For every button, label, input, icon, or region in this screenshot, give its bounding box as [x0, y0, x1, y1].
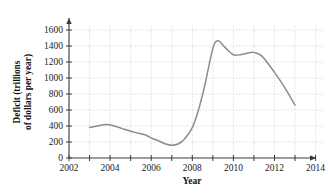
x-tick-label: 2006: [142, 163, 161, 173]
x-tick-label: 2014: [306, 163, 325, 173]
y-tick-label: 600: [49, 105, 64, 115]
x-tick-label: 2010: [224, 163, 243, 173]
y-tick-label: 1400: [44, 41, 63, 51]
y-tick-label: 400: [49, 121, 64, 131]
chart-canvas: 2002200420062008201020122014 02004006008…: [0, 0, 328, 196]
y-axis-title-line2: of dollars per year): [23, 54, 34, 130]
y-tick-label: 1000: [44, 73, 63, 83]
y-tick-label: 1600: [44, 25, 63, 35]
x-tick-label: 2002: [60, 163, 79, 173]
x-tick-label: 2008: [183, 163, 202, 173]
y-tick-label: 1200: [44, 57, 63, 67]
y-tick-label: 800: [49, 89, 64, 99]
deficit-line-chart: 2002200420062008201020122014 02004006008…: [0, 0, 328, 196]
y-axis-tick-labels: 02004006008001000120014001600: [44, 25, 63, 163]
y-axis-title-line1: Deficit (trillions: [12, 60, 23, 123]
x-axis-title: Year: [183, 176, 203, 186]
y-tick-label: 200: [49, 137, 64, 147]
x-tick-label: 2004: [101, 163, 120, 173]
y-axis-arrowhead: [66, 18, 71, 24]
x-axis-tick-labels: 2002200420062008201020122014: [60, 163, 326, 173]
y-tick-label: 0: [58, 153, 63, 163]
x-tick-label: 2012: [265, 163, 284, 173]
